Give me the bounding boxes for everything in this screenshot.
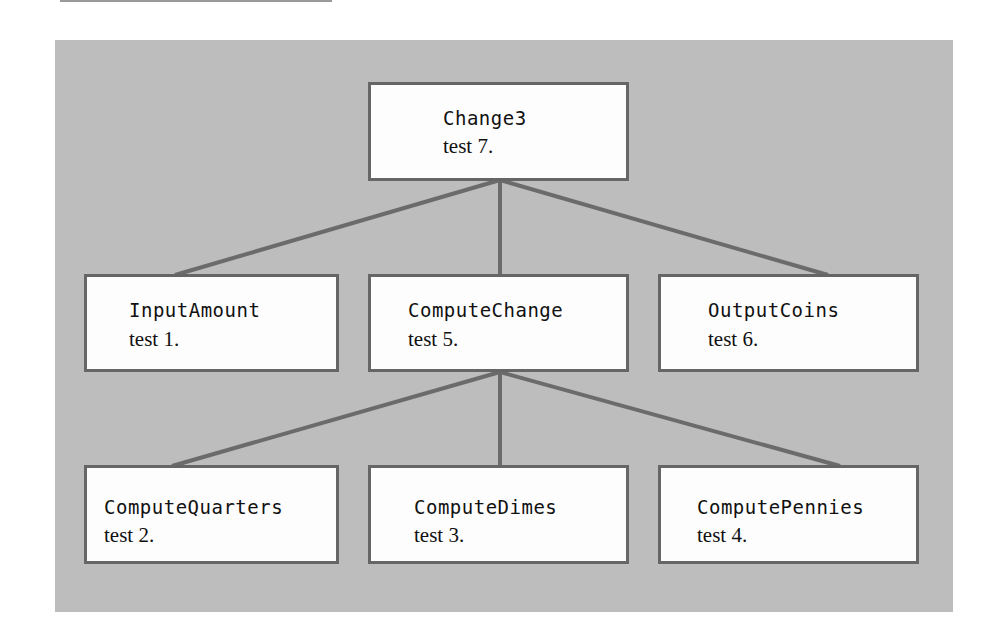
node-computequarters: ComputeQuarters test 2. <box>84 465 339 564</box>
node-test-label: test 3. <box>414 523 464 548</box>
node-outputcoins: OutputCoins test 6. <box>658 274 919 372</box>
node-inputamount: InputAmount test 1. <box>84 274 339 372</box>
node-computechange: ComputeChange test 5. <box>368 274 629 372</box>
edge-computechange-quarters <box>172 372 500 466</box>
node-change3: Change3 test 7. <box>368 82 629 181</box>
edge-change3-inputamount <box>175 180 500 275</box>
edge-change3-outputcoins <box>500 180 828 275</box>
node-computedimes: ComputeDimes test 3. <box>368 465 629 564</box>
node-name: ComputeQuarters <box>104 496 283 518</box>
node-name: OutputCoins <box>708 299 839 321</box>
node-test-label: test 1. <box>129 327 179 352</box>
node-test-label: test 6. <box>708 327 758 352</box>
node-name: ComputeChange <box>408 299 563 321</box>
node-test-label: test 7. <box>443 134 493 159</box>
node-test-label: test 4. <box>697 523 747 548</box>
node-test-label: test 5. <box>408 327 458 352</box>
edge-computechange-pennies <box>500 372 840 466</box>
node-name: ComputePennies <box>697 496 864 518</box>
node-computepennies: ComputePennies test 4. <box>658 465 919 564</box>
node-name: ComputeDimes <box>414 496 557 518</box>
node-test-label: test 2. <box>104 523 154 548</box>
node-name: Change3 <box>443 107 527 129</box>
node-name: InputAmount <box>129 299 260 321</box>
